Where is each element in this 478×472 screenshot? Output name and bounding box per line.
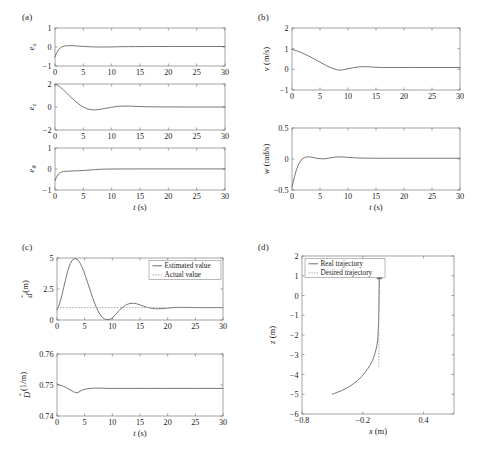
- legend-label: Real trajectory: [321, 260, 364, 268]
- series-path: [332, 274, 379, 394]
- y-tick-label: 1: [47, 24, 51, 33]
- y-tick-label: 0: [294, 292, 298, 301]
- legend-label: Estimated value: [165, 262, 211, 270]
- y-tick-label: −4: [290, 371, 299, 380]
- x-tick-label: 0: [290, 92, 294, 101]
- x-tick-label: 5: [81, 132, 85, 141]
- x-tick-label: 15: [136, 192, 144, 201]
- y-tick-label: 0.5: [278, 124, 288, 133]
- series-path: [55, 46, 225, 57]
- y-axis-title-text: v(m/s): [261, 47, 271, 72]
- x-tick-label: 5: [81, 192, 85, 201]
- y-tick-label: 1: [47, 144, 51, 153]
- x-axis-title: t(s): [369, 202, 383, 212]
- legend-label: Desired trajectory: [321, 269, 373, 277]
- x-tick-label: 30: [456, 92, 464, 101]
- plot-frame: [292, 28, 460, 90]
- x-tick-label: 0: [55, 322, 59, 331]
- x-tick-label: 30: [219, 322, 227, 331]
- series-path: [55, 169, 225, 181]
- x-tick-label: 15: [136, 322, 144, 331]
- x-tick-label: 10: [344, 92, 352, 101]
- x-tick-label: 0: [55, 418, 59, 427]
- panel-b: (b) 051015202530−1012v(m/s)051015202530−…: [240, 0, 478, 236]
- axes-d1: −0.8−0.20.4−6−5−4−3−2−1012: [290, 252, 454, 425]
- y-tick-label: 2: [294, 252, 298, 261]
- y-tick-label: −1: [280, 86, 289, 95]
- y-axis-title-text: Dˆ(1/m): [18, 372, 32, 399]
- y-tick-label: −2: [43, 126, 52, 135]
- x-tick-label: 5: [318, 92, 322, 101]
- plot-frame: [57, 354, 223, 416]
- panel-a-plots: 051015202530−101ex051015202530−202ez0510…: [0, 0, 240, 236]
- legend: Real trajectoryDesired trajectory: [305, 259, 385, 278]
- y-tick-label: 0: [47, 43, 51, 52]
- panel-c: (c) 05101520253002.55dˆ(m)Estimated valu…: [0, 236, 240, 472]
- y-axis-title: z(m): [267, 326, 277, 345]
- y-axis-title-text: eθ: [26, 166, 37, 173]
- y-axis-title: dˆ(m): [20, 280, 34, 298]
- x-axis-title-text: x(m): [368, 426, 387, 436]
- x-tick-label: 15: [136, 132, 144, 141]
- x-tick-label: 20: [164, 68, 172, 77]
- x-tick-label: 5: [318, 192, 322, 201]
- x-tick-label: 15: [372, 92, 380, 101]
- x-tick-label: 20: [400, 192, 408, 201]
- x-tick-label: 15: [136, 418, 144, 427]
- plot-frame: [55, 28, 225, 66]
- y-tick-label: 2: [47, 80, 51, 89]
- x-tick-label: 25: [428, 192, 436, 201]
- x-tick-label: 5: [83, 418, 87, 427]
- axes-b2: 051015202530−0.500.5: [274, 124, 464, 201]
- x-tick-label: 20: [164, 322, 172, 331]
- x-tick-label: 25: [193, 192, 201, 201]
- x-tick-label: 20: [164, 418, 172, 427]
- legend-label: Actual value: [165, 271, 202, 279]
- y-tick-label: 0.75: [39, 381, 53, 390]
- y-tick-label: −6: [290, 410, 299, 419]
- y-axis-title: ez: [26, 103, 37, 110]
- y-tick-label: 0.74: [39, 412, 53, 421]
- x-axis-title-text: t(s): [133, 428, 147, 438]
- y-tick-label: 2: [284, 24, 288, 33]
- x-tick-label: 30: [221, 132, 229, 141]
- x-tick-label: 25: [191, 322, 199, 331]
- x-tick-label: 25: [428, 92, 436, 101]
- x-axis-title-text: t(s): [133, 202, 147, 212]
- y-axis-title-text: w(rad/s): [261, 144, 271, 175]
- x-tick-label: 25: [191, 418, 199, 427]
- x-tick-label: 10: [108, 322, 116, 331]
- y-axis-title: w(rad/s): [261, 144, 271, 175]
- y-axis-title-text: z(m): [267, 326, 277, 345]
- axes-a2: 051015202530−202: [43, 80, 229, 141]
- x-tick-label: 5: [81, 68, 85, 77]
- x-tick-label: 10: [108, 418, 116, 427]
- x-tick-label: 15: [136, 68, 144, 77]
- x-tick-label: 0: [53, 132, 57, 141]
- x-tick-label: 20: [164, 192, 172, 201]
- axes-b1: 051015202530−1012: [280, 24, 464, 101]
- x-tick-label: 5: [83, 322, 87, 331]
- y-tick-label: −0.5: [274, 186, 289, 195]
- panel-c-tag: (c): [22, 242, 32, 252]
- x-tick-label: 30: [456, 192, 464, 201]
- y-axis-title-text: dˆ(m): [20, 280, 34, 298]
- y-tick-label: 0: [284, 155, 288, 164]
- series-path: [55, 84, 225, 110]
- x-tick-label: 30: [221, 68, 229, 77]
- y-tick-label: −1: [290, 311, 299, 320]
- panel-d: (d) −0.8−0.20.4−6−5−4−3−2−1012z(m)x(m)Re…: [240, 236, 478, 472]
- x-axis-title-text: t(s): [369, 202, 383, 212]
- x-tick-label: 20: [400, 92, 408, 101]
- y-tick-label: 1: [284, 45, 288, 54]
- panel-d-tag: (d): [258, 242, 269, 252]
- y-axis-title: ex: [26, 43, 37, 50]
- series-path: [292, 49, 460, 70]
- x-tick-label: 10: [108, 192, 116, 201]
- x-tick-label: 25: [193, 68, 201, 77]
- axes-a3: 051015202530−101: [43, 144, 229, 201]
- y-tick-label: 5: [49, 254, 53, 263]
- panel-d-plots: −0.8−0.20.4−6−5−4−3−2−1012z(m)x(m)Real t…: [240, 236, 478, 472]
- x-tick-label: 0: [290, 192, 294, 201]
- plot-frame: [292, 128, 460, 190]
